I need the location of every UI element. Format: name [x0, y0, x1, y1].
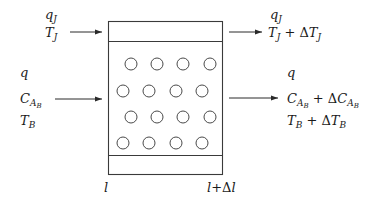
outlet-jacket-flow-label: qJ	[270, 8, 282, 24]
particle-circle-icon	[151, 58, 163, 70]
outlet-temperature-label: TB + ΔTB	[287, 114, 346, 130]
symbol: q	[287, 65, 295, 80]
subscript: B	[29, 120, 36, 130]
particle-circle-icon	[143, 137, 155, 149]
catalyst-particles	[117, 58, 216, 149]
subscript: J	[54, 32, 58, 42]
symbol: T	[331, 113, 340, 128]
particle-circle-icon	[196, 137, 208, 149]
symbol: T	[45, 25, 54, 40]
symbol: q	[20, 65, 28, 80]
particle-circle-icon	[204, 111, 216, 123]
particle-circle-icon	[196, 85, 208, 97]
symbol: C	[337, 91, 347, 106]
plus-sign: +	[309, 91, 328, 106]
outlet-jacket-temperature-label: TJ + ΔTJ	[268, 26, 321, 42]
symbol: T	[20, 113, 29, 128]
symbol: T	[309, 25, 318, 40]
particle-circle-icon	[170, 137, 182, 149]
sub-subscript: B	[354, 102, 359, 110]
particle-circle-icon	[125, 58, 137, 70]
particle-circle-icon	[177, 58, 189, 70]
right-boundary-label: l+Δl	[207, 181, 236, 194]
symbol: T	[287, 113, 296, 128]
plus-sign: +	[211, 180, 222, 195]
delta-sign: Δ	[328, 91, 337, 106]
symbol: C	[20, 91, 30, 106]
symbol: l	[104, 180, 108, 195]
particle-circle-icon	[143, 85, 155, 97]
inlet-temperature-label: TB	[20, 114, 35, 130]
particle-circle-icon	[170, 85, 182, 97]
particle-circle-icon	[117, 85, 129, 97]
symbol: T	[268, 25, 277, 40]
particle-circle-icon	[151, 111, 163, 123]
subscript: J	[278, 14, 282, 24]
left-boundary-label: l	[104, 181, 108, 194]
inlet-jacket-temperature-label: TJ	[45, 26, 57, 42]
delta-sign: Δ	[321, 113, 330, 128]
delta-sign: Δ	[299, 25, 308, 40]
plus-sign: +	[280, 25, 299, 40]
element-box	[109, 22, 223, 175]
particle-circle-icon	[125, 111, 137, 123]
outlet-concentration-label: CAB + ΔCAB	[287, 92, 359, 110]
subscript: J	[53, 14, 57, 24]
inlet-jacket-flow-label: qJ	[45, 8, 57, 24]
particle-circle-icon	[177, 111, 189, 123]
inlet-concentration-label: CAB	[20, 92, 42, 110]
symbol: C	[287, 91, 297, 106]
particle-circle-icon	[204, 58, 216, 70]
symbol: l	[231, 180, 235, 195]
subscript: J	[318, 32, 322, 42]
particle-circle-icon	[117, 137, 129, 149]
plus-sign: +	[302, 113, 321, 128]
subscript: B	[340, 120, 347, 130]
sub-subscript: B	[36, 102, 41, 110]
outlet-process-flow-label: q	[287, 66, 295, 79]
inlet-process-flow-label: q	[20, 66, 28, 79]
